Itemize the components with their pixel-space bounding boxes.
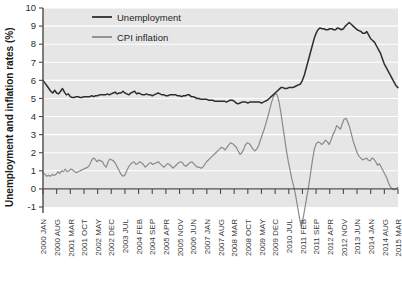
y-axis-tick-label: 4 — [31, 111, 36, 122]
y-axis-tick-label: 2 — [31, 147, 36, 158]
x-axis-tick-label: 2004 FEB — [135, 219, 144, 255]
y-axis-tick-label: 5 — [31, 93, 36, 104]
legend-label-unemployment: Unemployment — [117, 12, 181, 23]
x-axis-tick-label: 2005 NOV — [176, 218, 185, 256]
y-axis-tick-label: 7 — [31, 57, 36, 68]
x-axis-tick-label: 2008 OCT — [244, 219, 253, 256]
x-axis-tick-label: 2002 MAY — [94, 218, 103, 255]
x-axis-tick-label: 2014 AUG — [381, 219, 390, 256]
x-axis-tick-label: 2004 SEP — [148, 219, 157, 255]
y-axis-tick-label: 3 — [31, 129, 36, 140]
y-axis-tick-label: 6 — [31, 75, 36, 86]
x-axis-tick-label: 2009 DEC — [271, 219, 280, 256]
x-axis-tick-label: 2002 DEC — [107, 219, 116, 256]
x-axis-tick-label: 2001 OCT — [80, 219, 89, 256]
x-axis-tick-label: 2007 JAN — [203, 219, 212, 254]
y-axis-tick-label: -1 — [28, 201, 36, 212]
y-axis-tick-label: 8 — [31, 38, 36, 49]
x-axis-tick-label: 2001 MAR — [67, 219, 76, 257]
x-axis-tick-label: 2003 JUL — [121, 218, 130, 253]
x-axis-tick-label: 2007 AUG — [217, 219, 226, 256]
x-axis-tick-label: 2014 JAN — [367, 219, 376, 254]
x-axis-tick-label: 2006 JUN — [189, 219, 198, 255]
x-axis-tick-label: 2005 APR — [162, 219, 171, 255]
x-axis-tick-label: 2008 MAR — [230, 219, 239, 257]
x-axis-tick-label: 2011 SEP — [312, 219, 321, 254]
x-axis-tick-label: 2013 JUN — [353, 219, 362, 255]
x-axis-tick-label: 2009 MAY — [258, 218, 267, 255]
y-axis-tick-label: 0 — [31, 183, 36, 194]
x-axis-tick-label: 2011 FEB — [299, 219, 308, 254]
unemployment-cpi-line-chart: 109876543210-1 2000 JAN2000 AUG2001 MAR2… — [0, 0, 402, 284]
x-axis-tick-label: 2012 NOV — [340, 218, 349, 256]
x-axis-tick-label: 2012 APR — [326, 219, 335, 255]
x-axis-tick-labels: 2000 JAN2000 AUG2001 MAR2001 OCT2002 MAY… — [39, 218, 402, 256]
y-axis-tick-label: 9 — [31, 20, 36, 31]
chart-container: 109876543210-1 2000 JAN2000 AUG2001 MAR2… — [0, 0, 402, 284]
x-axis-tick-label: 2000 JAN — [39, 219, 48, 254]
y-axis-title: Unemployment and inflation rates (%) — [4, 28, 15, 207]
x-axis-tick-label: 2010 JUL — [285, 218, 294, 253]
y-axis-tick-label: 1 — [31, 165, 36, 176]
legend-label-cpi-inflation: CPI inflation — [117, 32, 168, 43]
x-axis-tick-label: 2015 MAR — [394, 219, 402, 257]
y-axis-tick-label: 10 — [25, 2, 36, 13]
x-axis-tick-label: 2000 AUG — [53, 219, 62, 256]
